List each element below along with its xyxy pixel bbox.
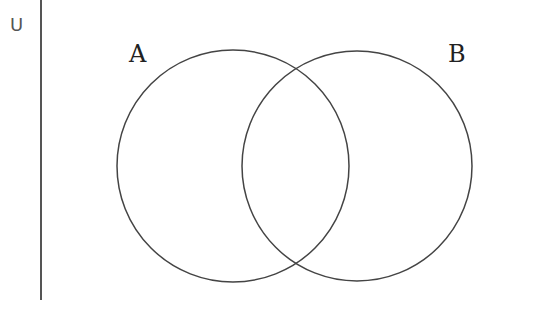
set-b-label: B (448, 40, 466, 68)
set-a-circle (117, 50, 349, 282)
set-a-label: A (129, 40, 146, 68)
set-b-circle (242, 51, 472, 281)
venn-diagram (0, 0, 549, 330)
